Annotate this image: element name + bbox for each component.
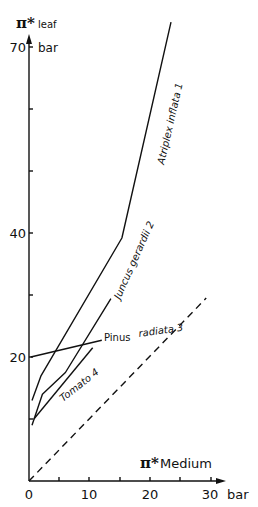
x-tick-label-20: 20 [142,487,159,502]
label-pinus-radiata: radiata 3 [138,322,184,339]
y-tick-label-40: 40 [9,226,26,241]
y-tick-label-70: 70 [9,40,26,55]
x-tick-label-10: 10 [81,487,98,502]
label-pinus: Pinus [104,332,130,343]
y-axis-pi-symbol: π* [16,14,35,32]
x-tick-label-0: 0 [25,487,33,502]
axes [26,34,226,484]
chart: 20 40 70 π* leaf bar 0 10 20 30 bar π* M… [0,0,258,507]
x-axis-arrow-icon [216,478,226,484]
y-axis-subscript: leaf [38,19,57,30]
series-atriplex-inflata [32,22,171,400]
x-tick-label-30: 30 [202,487,219,502]
label-tomato: Tomato 4 [57,366,100,403]
label-juncus-gerardii: Juncus gerardii 2 [111,219,156,302]
x-axis-unit: bar [227,487,249,502]
x-axis-title: Medium [160,456,212,471]
y-axis-arrow-icon [26,34,32,44]
x-axis-pi-symbol: π* [140,454,159,472]
label-atriplex-inflata: Atriplex inflata 1 [155,82,185,167]
y-tick-label-20: 20 [9,350,26,365]
y-axis-unit: bar [38,41,58,55]
